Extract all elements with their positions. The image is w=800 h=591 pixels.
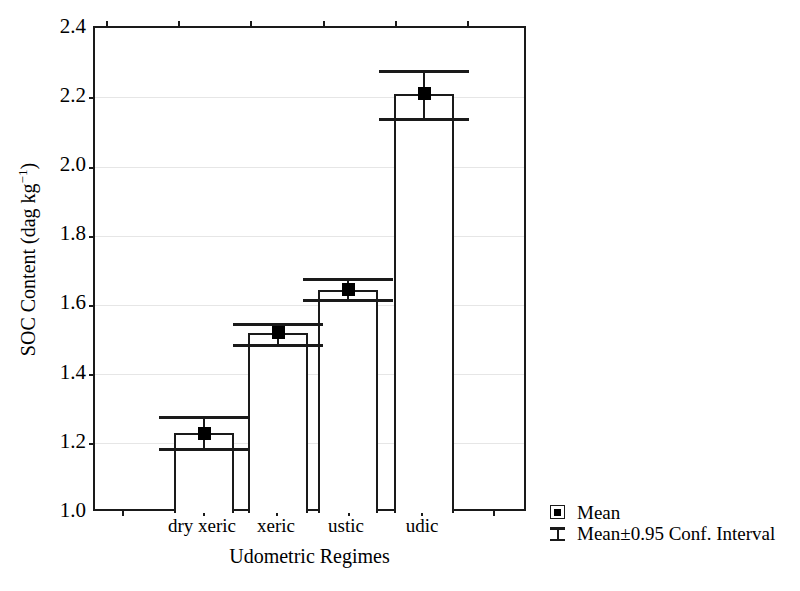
bar-xeric[interactable] xyxy=(248,333,308,513)
y-tick-label: 2.4 xyxy=(60,16,86,37)
y-axis-tick xyxy=(89,167,95,169)
errorbar-udic xyxy=(379,70,469,122)
legend-label-mean: Mean xyxy=(577,502,620,523)
bar-ustic[interactable] xyxy=(318,290,378,513)
x-axis-tick-top xyxy=(178,21,180,28)
errorbar-ustic xyxy=(303,278,393,302)
y-axis-tick-labels: 1.0 1.2 1.4 1.6 1.8 2.0 2.2 2.4 xyxy=(0,0,86,591)
legend-item-conf-interval: Mean±0.95 Conf. Interval xyxy=(548,523,798,544)
y-axis-tick xyxy=(89,97,95,99)
x-tick-label-udic: udic xyxy=(372,516,472,535)
y-axis-tick xyxy=(89,443,95,445)
mean-marker xyxy=(272,326,285,339)
legend-label-conf-interval: Mean±0.95 Conf. Interval xyxy=(577,523,775,544)
gridline xyxy=(95,236,524,237)
mean-marker xyxy=(198,427,211,440)
y-tick-label: 1.4 xyxy=(60,362,86,383)
y-tick-label: 1.6 xyxy=(60,292,86,313)
errorbar-cap-lower xyxy=(379,118,469,121)
y-tick-label: 1.8 xyxy=(60,223,86,244)
mean-marker xyxy=(418,87,431,100)
legend-item-mean: Mean xyxy=(548,502,798,523)
y-tick-label: 1.2 xyxy=(60,431,86,452)
chart-legend: Mean Mean±0.95 Conf. Interval xyxy=(548,502,798,544)
y-tick-label: 2.2 xyxy=(60,85,86,106)
gridline xyxy=(95,167,524,168)
y-axis-title-suffix: ) xyxy=(17,163,39,170)
gridline xyxy=(95,305,524,306)
y-axis-title-exponent: −1 xyxy=(15,170,30,184)
errorbar-cap-lower xyxy=(159,448,249,451)
x-axis-tick-top xyxy=(395,21,397,28)
y-axis-tick xyxy=(89,236,95,238)
gridline xyxy=(95,374,524,375)
errorbar-dry-xeric xyxy=(159,416,249,451)
error-bar-icon xyxy=(548,524,572,543)
mean-marker xyxy=(342,283,355,296)
x-axis-tick-top xyxy=(467,21,469,28)
y-axis-tick xyxy=(89,374,95,376)
bar-udic[interactable] xyxy=(394,94,454,513)
x-axis-tick xyxy=(122,509,124,516)
x-axis-tick-top xyxy=(106,21,108,28)
errorbar-xeric xyxy=(233,323,323,347)
chart-figure: 1.0 1.2 1.4 1.6 1.8 2.0 2.2 2.4 SOC Cont… xyxy=(0,0,800,591)
x-axis-tick xyxy=(493,509,495,516)
x-axis-tick-top xyxy=(250,21,252,28)
y-tick-label: 1.0 xyxy=(60,500,86,521)
errorbar-cap-lower xyxy=(233,344,323,347)
y-tick-label: 2.0 xyxy=(60,154,86,175)
plot-area xyxy=(93,26,526,511)
y-axis-tick xyxy=(89,305,95,307)
x-axis-tick-top xyxy=(323,21,325,28)
filled-square-icon xyxy=(548,503,572,522)
y-axis-title: SOC Content (dag kg−1) xyxy=(17,20,40,500)
x-axis-title: Udometric Regimes xyxy=(93,545,526,568)
y-axis-title-main: SOC Content (dag kg xyxy=(17,183,39,356)
errorbar-cap-lower xyxy=(303,299,393,302)
